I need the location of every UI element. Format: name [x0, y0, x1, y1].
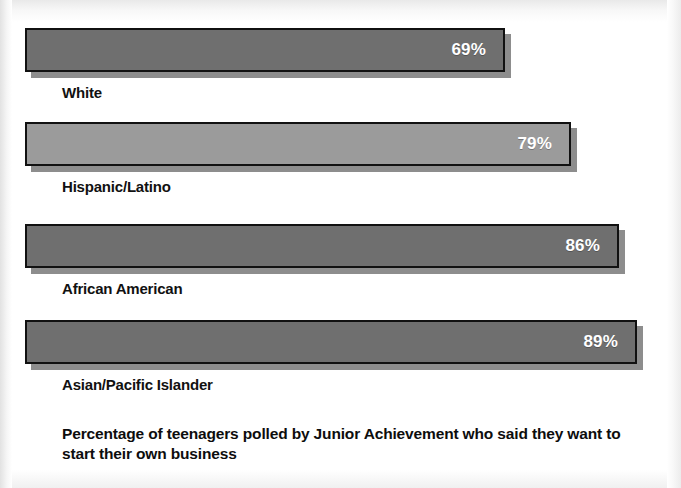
bars-area: 69% White 79% Hispanic/Latino 86% Africa… — [0, 0, 681, 410]
bar-african-american[interactable]: 86% — [25, 224, 619, 268]
bar-value-african-american: 86% — [565, 236, 617, 256]
bar-label-african-american: African American — [62, 280, 182, 297]
bar-hispanic-latino[interactable]: 79% — [25, 122, 571, 166]
bar-value-white: 69% — [451, 40, 503, 60]
bar-label-asian-pacific-islander: Asian/Pacific Islander — [62, 376, 213, 393]
bar-label-hispanic-latino: Hispanic/Latino — [62, 178, 171, 195]
bar-value-hispanic-latino: 79% — [517, 134, 569, 154]
bar-value-asian-pacific-islander: 89% — [583, 332, 635, 352]
bar-white[interactable]: 69% — [25, 28, 505, 72]
bar-chart: 69% White 79% Hispanic/Latino 86% Africa… — [0, 0, 681, 488]
bar-asian-pacific-islander[interactable]: 89% — [25, 320, 637, 364]
bar-label-white: White — [62, 84, 102, 101]
chart-caption: Percentage of teenagers polled by Junior… — [62, 424, 647, 464]
